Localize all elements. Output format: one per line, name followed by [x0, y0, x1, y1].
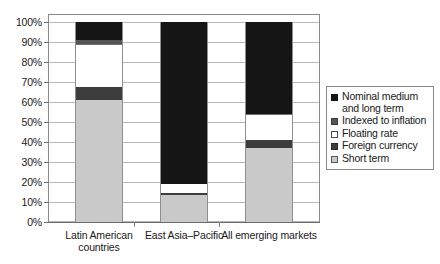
stacked-bar-chart: 100% 90% 80% 70% 60% 50% 40% 30% 20% 10%… [0, 0, 440, 264]
y-tick-label-80: 80% [0, 57, 42, 67]
indexed-swatch-icon [331, 118, 338, 125]
bar-all-emerging-markets[interactable] [245, 22, 293, 222]
nominal-swatch-icon [331, 94, 338, 101]
bar-east-asia-pacific[interactable] [160, 22, 208, 222]
legend-label: Indexed to inflation [342, 115, 426, 127]
segment-foreign-currency [161, 193, 207, 195]
y-tick-label-60: 60% [0, 97, 42, 107]
x-axis-separator-2 [219, 222, 220, 227]
y-tick-label-70: 70% [0, 77, 42, 87]
legend-item-floating-rate[interactable]: Floating rate [331, 128, 430, 140]
legend-item-foreign-currency[interactable]: Foreign currency [331, 140, 430, 152]
legend-item-short-term[interactable]: Short term [331, 153, 430, 165]
segment-floating-rate [76, 44, 122, 87]
legend-label: Nominal medium and long term [342, 91, 418, 114]
plot-area [49, 22, 319, 222]
segment-divider [246, 114, 292, 115]
legend-item-nominal-medium-and-long-term[interactable]: Nominal medium and long term [331, 91, 430, 114]
x-axis-label-all-emerging-markets: All emerging markets [214, 230, 324, 242]
y-tick-label-50: 50% [0, 117, 42, 127]
y-axis: 100% 90% 80% 70% 60% 50% 40% 30% 20% 10%… [0, 14, 48, 224]
y-tick-label-10: 10% [0, 197, 42, 207]
y-tick-label-90: 90% [0, 37, 42, 47]
segment-short-term [246, 148, 292, 222]
segment-divider [76, 44, 122, 45]
segment-nominal-medium-long-term [161, 22, 207, 184]
floating-swatch-icon [331, 131, 338, 138]
short-swatch-icon [331, 156, 338, 163]
legend-label: Foreign currency [342, 140, 418, 152]
segment-floating-rate [161, 184, 207, 193]
bar-latin-american-countries[interactable] [75, 22, 123, 222]
segment-indexed-to-inflation [76, 40, 122, 44]
segment-short-term [161, 195, 207, 222]
segment-foreign-currency [246, 140, 292, 148]
segment-floating-rate [246, 114, 292, 140]
y-tick-label-40: 40% [0, 137, 42, 147]
segment-short-term [76, 100, 122, 222]
x-axis-line [48, 222, 320, 223]
y-tick-label-30: 30% [0, 157, 42, 167]
legend-label: Short term [342, 153, 389, 165]
foreign-swatch-icon [331, 143, 338, 150]
y-tick-label-100: 100% [0, 17, 42, 27]
y-tick-label-0: 0% [0, 217, 42, 227]
legend-label: Floating rate [342, 128, 398, 140]
segment-nominal-medium-long-term [76, 22, 122, 40]
x-axis-separator-1 [134, 222, 135, 227]
segment-nominal-medium-long-term [246, 22, 292, 114]
y-tick-label-20: 20% [0, 177, 42, 187]
legend-item-indexed-to-inflation[interactable]: Indexed to inflation [331, 115, 430, 127]
segment-foreign-currency [76, 87, 122, 100]
chart-legend: Nominal medium and long term Indexed to … [326, 86, 434, 170]
